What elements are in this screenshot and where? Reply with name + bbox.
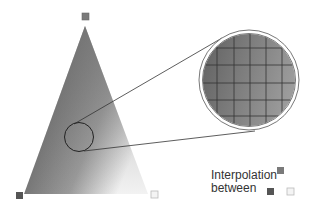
vertex-top-swatch [82, 13, 89, 20]
vertex-bottom-left-swatch [16, 192, 23, 199]
gradient-triangle [24, 26, 148, 194]
vertex-bottom-right-swatch [151, 191, 158, 198]
legend-swatch-top [277, 167, 284, 174]
magnifier-lens [199, 30, 300, 130]
legend-label-line2: between [211, 182, 256, 195]
legend-swatch-light [287, 188, 294, 195]
legend-swatch-dark [267, 188, 274, 195]
